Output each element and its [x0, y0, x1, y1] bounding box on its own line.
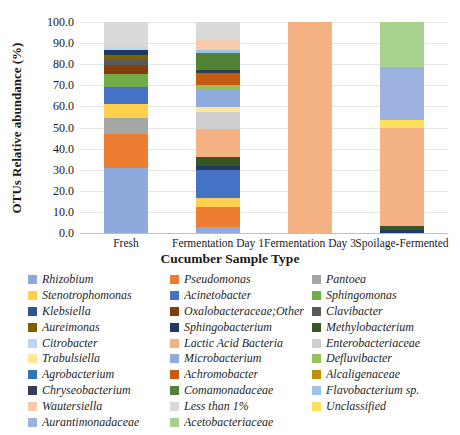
legend-item: Trabulsiella — [28, 352, 170, 365]
legend-item: Wautersiella — [28, 400, 170, 413]
y-tick-label: 0.0 — [28, 227, 74, 240]
legend-swatch-icon — [312, 402, 321, 411]
legend-label: Alcaligenaceae — [326, 368, 400, 381]
legend-swatch-icon — [170, 275, 179, 284]
legend-label: Achromobacter — [184, 368, 258, 381]
y-tick-label: 80.0 — [28, 58, 74, 71]
legend-item: Aureimonas — [28, 321, 170, 334]
legend-label: Rhizobium — [42, 273, 93, 286]
legend-item: Microbacterium — [170, 352, 312, 365]
legend: RhizobiumPseudomonasPantoeaStenotrophomo… — [28, 272, 452, 430]
legend-swatch-icon — [312, 354, 321, 363]
bar-spoilage-fermented — [380, 22, 424, 233]
legend-item: Aurantimonadaceae — [28, 416, 170, 429]
legend-item: Acetobacteriaceae — [170, 416, 312, 429]
bar-segment — [104, 118, 148, 134]
y-tick-label: 30.0 — [28, 164, 74, 177]
legend-item: Chryseobacterium — [28, 384, 170, 397]
bar-fermentation-day-1 — [196, 22, 240, 233]
legend-item: Citrobacter — [28, 337, 170, 350]
bar-segment — [380, 120, 424, 128]
bar-segment — [104, 87, 148, 104]
legend-item: Acinetobacter — [170, 289, 312, 302]
bar-fermentation-day-3 — [288, 22, 332, 233]
legend-label: Unclassified — [326, 400, 386, 413]
bar-segment — [380, 22, 424, 67]
bar-segment — [104, 74, 148, 88]
bar-segment — [196, 198, 240, 206]
bar-segment — [104, 65, 148, 73]
y-tick-label: 20.0 — [28, 185, 74, 198]
legend-item: Enterobacteriaceae — [312, 337, 452, 350]
legend-item: Rhizobium — [28, 273, 170, 286]
legend-swatch-icon — [312, 386, 321, 395]
legend-item: Sphingobacterium — [170, 321, 312, 334]
legend-label: Stenotrophomonas — [42, 289, 132, 302]
legend-item: Unclassified — [312, 400, 452, 413]
legend-item: Defluvibacter — [312, 352, 452, 365]
legend-swatch-icon — [28, 370, 37, 379]
y-tick-label: 60.0 — [28, 100, 74, 113]
legend-item: Klebsiella — [28, 305, 170, 318]
legend-item: Pantoea — [312, 273, 452, 286]
y-tick-label: 50.0 — [28, 122, 74, 135]
legend-item: Sphingomonas — [312, 289, 452, 302]
legend-label: Acetobacteriaceae — [184, 416, 273, 429]
bar-segment — [196, 157, 240, 165]
legend-label: Microbacterium — [184, 352, 262, 365]
legend-item: Flavobacterium sp. — [312, 384, 452, 397]
stacked-bar-chart: OTUs Relative abundance (%) 100.090.080.… — [0, 0, 460, 435]
legend-label: Sphingobacterium — [184, 321, 272, 334]
legend-swatch-icon — [312, 323, 321, 332]
x-axis-category-label: Fermentation Day 3 — [264, 237, 356, 249]
legend-label: Lactic Acid Bacteria — [184, 337, 283, 350]
legend-item: Stenotrophomonas — [28, 289, 170, 302]
y-tick-label: 90.0 — [28, 37, 74, 50]
legend-item: Oxalobacteraceae;Other — [170, 305, 312, 318]
legend-item: Methylobacterium — [312, 321, 452, 334]
legend-item: Comamonadaceae — [170, 384, 312, 397]
legend-label: Aureimonas — [42, 321, 100, 334]
legend-swatch-icon — [170, 307, 179, 316]
legend-label: Oxalobacteraceae;Other — [184, 305, 304, 318]
legend-label: Klebsiella — [42, 305, 91, 318]
legend-label: Clavibacter — [326, 305, 383, 318]
bar-segment — [196, 53, 240, 70]
legend-swatch-icon — [28, 386, 37, 395]
legend-label: Trabulsiella — [42, 352, 100, 365]
legend-swatch-icon — [28, 418, 37, 427]
legend-swatch-icon — [170, 323, 179, 332]
legend-swatch-icon — [170, 418, 179, 427]
legend-swatch-icon — [312, 339, 321, 348]
bar-segment — [104, 22, 148, 47]
legend-label: Methylobacterium — [326, 321, 414, 334]
legend-swatch-icon — [170, 370, 179, 379]
legend-item: Lactic Acid Bacteria — [170, 337, 312, 350]
legend-swatch-icon — [170, 339, 179, 348]
legend-label: Aurantimonadaceae — [42, 416, 139, 429]
legend-label: Chryseobacterium — [42, 384, 131, 397]
legend-swatch-icon — [170, 386, 179, 395]
bar-segment — [196, 89, 240, 107]
bar-segment — [196, 22, 240, 40]
bar-segment — [380, 67, 424, 120]
legend-label: Less than 1% — [184, 400, 249, 413]
legend-swatch-icon — [28, 307, 37, 316]
legend-label: Citrobacter — [42, 337, 98, 350]
bar-segment — [196, 227, 240, 233]
legend-label: Pseudomonas — [184, 273, 251, 286]
y-axis-title: OTUs Relative abundance (%) — [9, 18, 27, 238]
bar-segment — [196, 40, 240, 50]
legend-swatch-icon — [28, 323, 37, 332]
legend-swatch-icon — [170, 354, 179, 363]
bar-segment — [380, 230, 424, 233]
bar-segment — [196, 170, 240, 198]
bar-segment — [196, 129, 240, 158]
y-tick-label: 100.0 — [28, 16, 74, 29]
legend-item: Clavibacter — [312, 305, 452, 318]
x-axis-title: Cucumber Sample Type — [0, 251, 460, 267]
legend-swatch-icon — [28, 354, 37, 363]
legend-label: Defluvibacter — [326, 352, 392, 365]
legend-swatch-icon — [312, 275, 321, 284]
y-tick-label: 40.0 — [28, 143, 74, 156]
